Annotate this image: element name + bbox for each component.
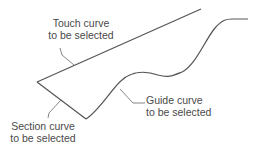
touch-label-line1: Touch curve [31,17,131,29]
touch-leader [60,48,74,65]
guide-curve-label: Guide curve to be selected [146,94,211,118]
guide-leader [120,89,145,103]
section-leader [48,100,61,118]
guide-label-line2: to be selected [146,106,211,118]
guide-label-line1: Guide curve [146,94,211,106]
touch-curve-label: Touch curve to be selected [31,17,131,41]
section-label-line2: to be selected [3,132,83,144]
section-label-line1: Section curve [3,120,83,132]
section-curve [37,82,86,119]
touch-label-line2: to be selected [31,29,131,41]
section-curve-label: Section curve to be selected [3,120,83,144]
